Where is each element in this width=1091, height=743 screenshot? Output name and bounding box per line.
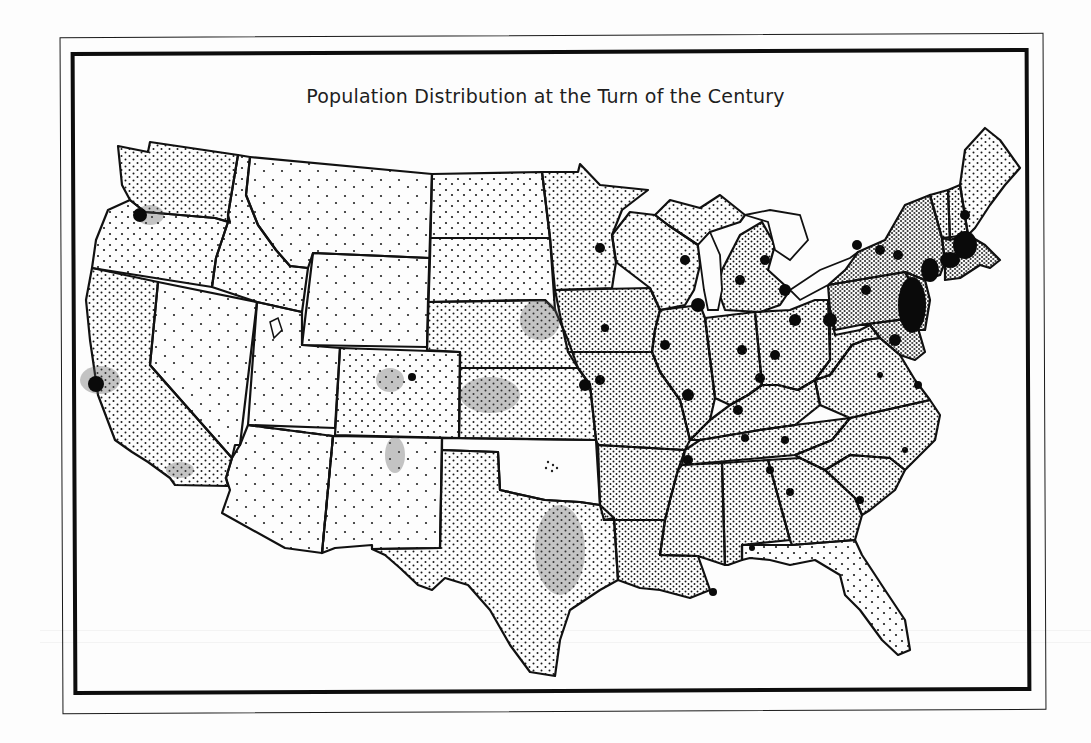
- portland-blob: [133, 208, 147, 222]
- new-orleans-blob: [709, 588, 717, 596]
- state-new-mexico: [322, 436, 442, 553]
- peoria-blob: [660, 340, 670, 350]
- syracuse-blob: [893, 250, 903, 260]
- state-wyoming: [302, 253, 430, 347]
- minneapolis-blob: [595, 243, 605, 253]
- des-moines-blob: [601, 324, 609, 332]
- norfolk-blob: [914, 381, 922, 389]
- richmond-blob: [877, 372, 883, 378]
- cleveland-blob: [789, 314, 801, 326]
- state-north-dakota: [430, 172, 550, 238]
- savannah-blob: [856, 496, 864, 504]
- state-iowa: [555, 288, 660, 352]
- milwaukee-blob: [680, 255, 690, 265]
- omaha-kansas-city-blob: [579, 379, 591, 391]
- state-maine: [960, 128, 1020, 235]
- state-florida: [742, 540, 910, 655]
- new-york-blob: [921, 258, 939, 282]
- knoxville-blob: [781, 436, 789, 444]
- detroit-blob: [779, 284, 791, 296]
- portland-maine-blob: [960, 210, 970, 220]
- chicago-blob: [691, 298, 705, 312]
- harrisburg-blob: [861, 285, 871, 295]
- philadelphia-nyc-blob: [898, 277, 926, 333]
- denver-blob: [408, 373, 416, 381]
- atlanta-blob: [786, 488, 794, 496]
- saginaw-blob: [760, 255, 770, 265]
- wilmington-blob: [902, 447, 908, 453]
- us-population-map: [0, 0, 1091, 743]
- cincinnati-blob: [755, 373, 765, 383]
- oklahoma-cluster: [545, 461, 558, 472]
- baltimore-blob: [889, 334, 901, 346]
- memphis-blob: [683, 455, 693, 465]
- louisville-blob: [733, 405, 743, 415]
- pittsburgh-blob: [823, 313, 837, 327]
- columbus-blob: [770, 350, 780, 360]
- lake-michigan: [698, 232, 722, 310]
- chattanooga-blob: [766, 466, 774, 474]
- grand-rapids-blob: [735, 275, 745, 285]
- rochester-blob: [875, 245, 885, 255]
- buffalo-blob: [852, 240, 862, 250]
- hartford-providence-blob: [940, 252, 960, 268]
- san-francisco-blob: [88, 376, 104, 392]
- kansas-city-blob: [595, 375, 605, 385]
- indianapolis-blob: [737, 345, 747, 355]
- nashville-blob: [741, 434, 749, 442]
- state-colorado: [335, 348, 460, 438]
- scanned-page: Population Distribution at the Turn of t…: [0, 0, 1091, 743]
- mobile-blob: [749, 545, 755, 551]
- st-louis-blob: [682, 389, 694, 401]
